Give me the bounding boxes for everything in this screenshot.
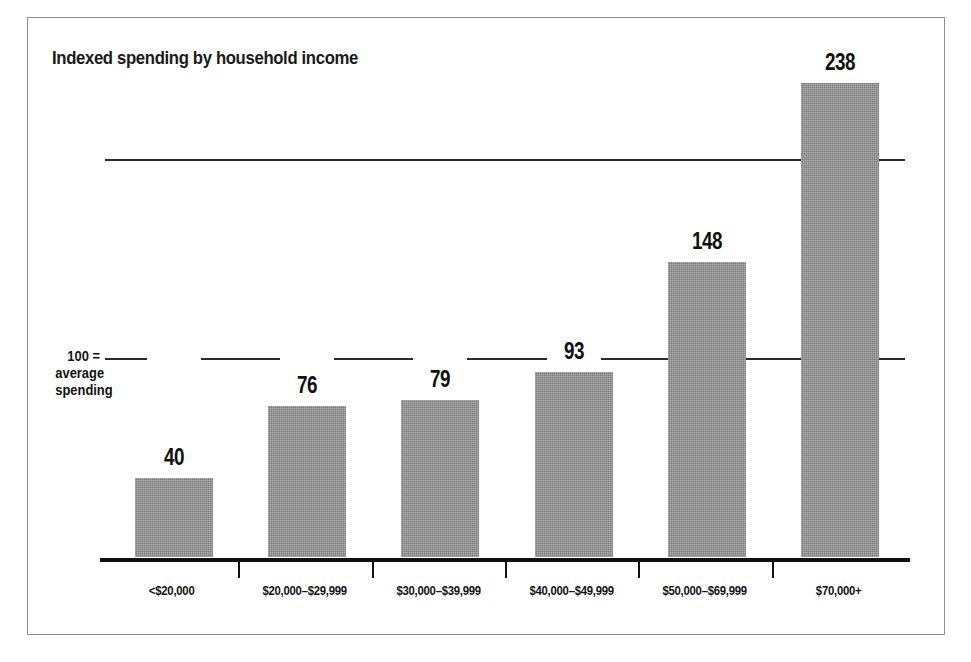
category-label-2: $20,000–$29,999 (239, 583, 371, 598)
axis-tick (505, 562, 507, 578)
bar-3 (401, 400, 479, 558)
bar-6 (801, 83, 879, 558)
bar-value-label-5: 148 (650, 228, 763, 255)
axis-tick (238, 562, 240, 578)
category-label-6: $70,000+ (772, 583, 904, 598)
bar-2 (268, 406, 346, 558)
bar-value-label-1: 40 (117, 444, 230, 471)
category-label-3: $30,000–$39,999 (372, 583, 504, 598)
gridline (334, 358, 413, 360)
gridline (105, 358, 147, 360)
category-label-1: <$20,000 (106, 583, 238, 598)
bar-value-label-3: 79 (384, 366, 497, 393)
bar-value-label-6: 238 (784, 49, 897, 76)
bar-value-label-2: 76 (250, 372, 363, 399)
axis-tick (372, 562, 374, 578)
bar-value-label-4: 93 (517, 338, 630, 365)
category-label-4: $40,000–$49,999 (506, 583, 638, 598)
bar-4 (535, 372, 613, 558)
plot-area: 40767993148238<$20,000$20,000–$29,999$30… (0, 0, 971, 662)
chart-figure: Indexed spending by household income 100… (0, 0, 971, 662)
axis-tick (638, 562, 640, 578)
bar-5 (668, 262, 746, 557)
gridline (105, 159, 905, 161)
category-label-5: $50,000–$69,999 (639, 583, 771, 598)
axis-tick (772, 562, 774, 578)
gridline (201, 358, 280, 360)
bar-1 (135, 478, 213, 558)
